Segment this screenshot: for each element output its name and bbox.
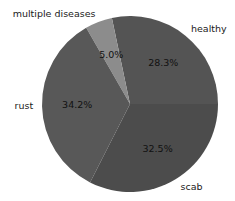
label-rust: rust [15, 100, 34, 111]
pie-chart: healthymultiple diseasesrustscab 28.3%5.… [0, 0, 235, 201]
label-multiple-diseases: multiple diseases [13, 8, 96, 19]
pct-multiple-diseases: 5.0% [99, 49, 123, 60]
pct-scab: 32.5% [143, 143, 173, 154]
label-scab: scab [181, 181, 203, 192]
pct-rust: 34.2% [62, 99, 92, 110]
label-healthy: healthy [191, 23, 227, 34]
pct-healthy: 28.3% [148, 57, 178, 68]
